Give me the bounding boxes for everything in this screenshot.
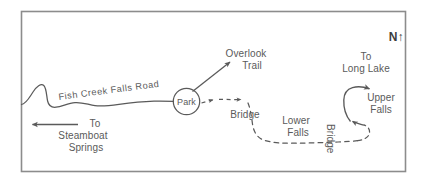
steamboat-label-line2: Steamboat xyxy=(41,130,125,141)
trail-segment-park-to-bridge-a xyxy=(202,100,214,103)
trail-east-curl-dashed xyxy=(358,125,370,140)
long-lake-label-line2: Long Lake xyxy=(328,63,404,74)
trail-map: Fish Creek Falls Road Park Overlook Trai… xyxy=(0,0,423,186)
lower-falls-label-line1: Lower xyxy=(274,115,318,126)
upper-falls-arrow xyxy=(353,121,365,125)
bridge-east-label: Bridge xyxy=(325,124,336,154)
north-arrow-icon: ↑ xyxy=(398,30,404,44)
steamboat-label-line1: To xyxy=(66,118,124,129)
steamboat-label-line3: Springs xyxy=(47,142,125,153)
upper-falls-label-line1: Upper xyxy=(359,92,403,103)
lower-falls-label-line2: Falls xyxy=(276,127,320,138)
upper-falls-label-line2: Falls xyxy=(359,104,403,115)
overlook-trail-label-line1: Overlook xyxy=(216,48,276,59)
overlook-trail-label-line2: Trail xyxy=(222,60,282,71)
compass-north-label: N↑ xyxy=(375,18,404,58)
park-label: Park xyxy=(172,97,201,107)
compass-letter: N xyxy=(389,30,398,44)
bridge-west-label: Bridge xyxy=(223,109,267,120)
